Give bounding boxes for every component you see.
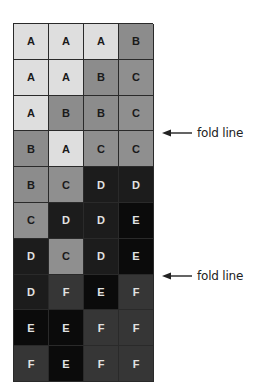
grid-cell: D — [84, 239, 119, 275]
grid-cell: C — [49, 167, 84, 203]
grid-cell: A — [14, 96, 49, 132]
grid-cell: E — [49, 310, 84, 346]
grid-cell: E — [14, 310, 49, 346]
grid-cell: A — [14, 60, 49, 96]
grid-cell: F — [119, 275, 154, 311]
fold-line-annotation-2: fold line — [162, 268, 243, 284]
grid-cell: C — [84, 131, 119, 167]
grid-cell: D — [84, 167, 119, 203]
grid-cell: C — [49, 239, 84, 275]
left-arrow-icon — [162, 128, 192, 138]
grid-cell: C — [119, 96, 154, 132]
fold-line-annotation-1: fold line — [162, 125, 243, 141]
grid-cell: F — [84, 310, 119, 346]
grid-cell: B — [14, 167, 49, 203]
grid-cell: D — [14, 275, 49, 311]
grade-grid: AAABAABCABBCBACCBCDDCDDEDCDEDFEFEEFFFEFF — [13, 23, 153, 382]
grid-cell: F — [119, 310, 154, 346]
grid-cell: A — [84, 24, 119, 60]
grid-cell: F — [84, 346, 119, 382]
grid-cell: B — [119, 24, 154, 60]
grid-cell: F — [49, 275, 84, 311]
grid-cell: C — [14, 203, 49, 239]
fold-line-label: fold line — [197, 126, 243, 140]
grid-cell: E — [49, 346, 84, 382]
grid-cell: E — [119, 203, 154, 239]
grid-cell: B — [84, 60, 119, 96]
grid-cell: D — [49, 203, 84, 239]
grid-cell: F — [119, 346, 154, 382]
grid-cell: F — [14, 346, 49, 382]
grid-cell: C — [119, 131, 154, 167]
grid-cell: A — [49, 60, 84, 96]
grid-cell: E — [84, 275, 119, 311]
fold-line-label: fold line — [197, 269, 243, 283]
grid-cell: D — [84, 203, 119, 239]
left-arrow-icon — [162, 271, 192, 281]
grid-cell: A — [49, 24, 84, 60]
grid-cell: B — [49, 96, 84, 132]
grid-cell: A — [49, 131, 84, 167]
grid-cell: D — [14, 239, 49, 275]
grid-cell: E — [119, 239, 154, 275]
grid-cell: B — [84, 96, 119, 132]
grid-cell: C — [119, 60, 154, 96]
grid-cell: A — [14, 24, 49, 60]
grid-cell: D — [119, 167, 154, 203]
grid-cell: B — [14, 131, 49, 167]
